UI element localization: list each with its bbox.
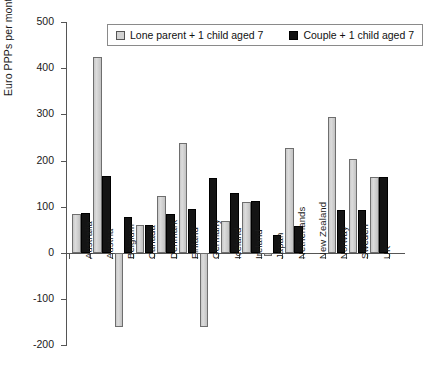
x-label-belgium: Belgium	[125, 224, 136, 259]
y-tick-mark	[61, 345, 67, 346]
x-tick	[69, 254, 70, 259]
legend-swatch-icon-black	[289, 31, 298, 40]
y-tick-label: 300	[18, 108, 54, 119]
x-label-sweden: Sweden	[359, 224, 370, 259]
bar-iceland-series-0	[221, 221, 230, 253]
y-tick-label: 200	[18, 155, 54, 166]
y-tick-300: 300	[18, 114, 67, 115]
legend-item-couple: Couple + 1 child aged 7	[289, 29, 414, 41]
x-label-japan: Japan	[274, 233, 285, 259]
y-tick-label: 500	[18, 16, 54, 27]
x-label-germany: Germany	[210, 219, 221, 259]
x-label-australia: Australia	[83, 221, 94, 259]
x-label-ireland: Ireland	[253, 229, 264, 259]
x-label-finland: Finland	[189, 227, 200, 259]
legend-item-lone-parent: Lone parent + 1 child aged 7	[116, 29, 263, 41]
y-tick-label: 400	[18, 62, 54, 73]
y-tick--200: -200	[18, 345, 67, 346]
x-label-canada: Canada	[146, 225, 157, 259]
x-label-norway: Norway	[338, 226, 349, 259]
y-tick-400: 400	[18, 68, 67, 69]
plot-area	[67, 22, 407, 345]
bar-australia-series-0	[72, 214, 81, 253]
bar-norway-series-0	[328, 117, 337, 253]
x-label-austria: Austria	[104, 229, 115, 259]
bar-ireland-series-0	[242, 202, 251, 253]
bar-germany-series-0	[200, 253, 209, 327]
legend-label-couple: Couple + 1 child aged 7	[303, 29, 414, 41]
bar-uk-series-1	[379, 177, 388, 253]
y-axis-title: Euro PPPs per month	[2, 0, 14, 96]
bar-uk-series-0	[370, 177, 379, 253]
legend-swatch-icon-grey	[116, 31, 125, 40]
x-label-denmark: Denmark	[168, 220, 179, 259]
bar-netherlands-series-0	[285, 148, 294, 253]
y-tick-200: 200	[18, 161, 67, 162]
y-tick-label: -200	[18, 339, 54, 350]
bar-sweden-series-0	[349, 159, 358, 253]
bar-denmark-series-0	[157, 196, 166, 253]
bar-canada-series-0	[136, 225, 145, 253]
y-tick--100: -100	[18, 299, 67, 300]
y-tick-label: 0	[18, 247, 54, 258]
x-label-uk: UK	[381, 246, 392, 259]
bar-finland-series-0	[179, 143, 188, 253]
y-tick-500: 500	[18, 22, 67, 23]
x-label-new-zealand: New Zealand	[317, 202, 328, 259]
y-tick-label: -100	[18, 293, 54, 304]
x-label-iceland: Iceland	[232, 228, 243, 259]
y-tick-0: 0	[18, 253, 67, 254]
bar-japan-series-0	[264, 253, 273, 256]
bar-belgium-series-0	[115, 253, 124, 327]
x-label-netherlands: Netherlands	[296, 207, 307, 259]
bar-austria-series-0	[93, 57, 102, 253]
y-tick-label: 100	[18, 201, 54, 212]
legend-label-lone-parent: Lone parent + 1 child aged 7	[130, 29, 263, 41]
y-tick-100: 100	[18, 207, 67, 208]
legend: Lone parent + 1 child aged 7 Couple + 1 …	[107, 24, 423, 46]
